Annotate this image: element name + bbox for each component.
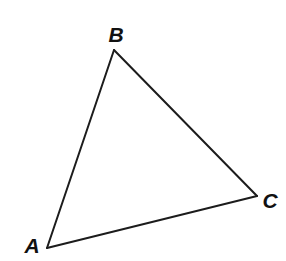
triangle-figure: A B C bbox=[0, 0, 286, 261]
edge-ca bbox=[47, 196, 257, 248]
edge-bc bbox=[114, 50, 257, 196]
vertex-label-a: A bbox=[24, 235, 39, 256]
triangle-diagram bbox=[0, 0, 286, 261]
vertex-label-c: C bbox=[262, 190, 277, 211]
vertex-label-b: B bbox=[108, 24, 123, 45]
edge-ab bbox=[47, 50, 114, 248]
